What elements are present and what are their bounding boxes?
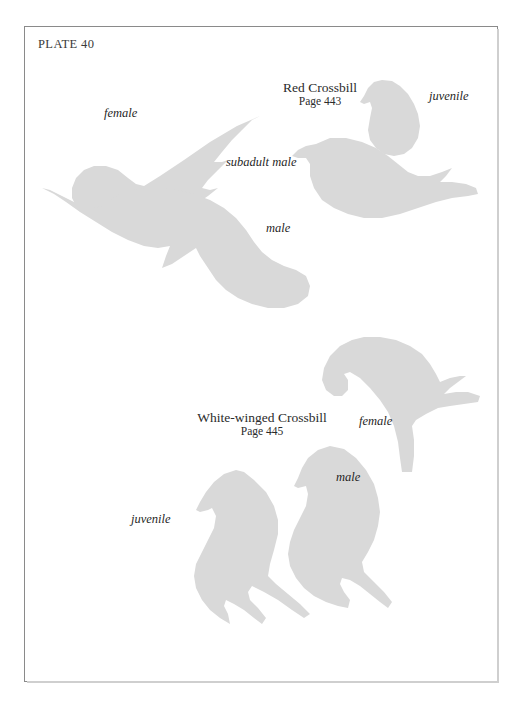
- plate-page: PLATE 40: [0, 0, 522, 710]
- figure-label-white-winged-crossbill-juvenile: juvenile: [131, 512, 171, 527]
- species-page-red-crossbill: Page 443: [245, 95, 395, 108]
- plate-number-label: PLATE 40: [38, 37, 94, 52]
- species-name-red-crossbill: Red Crossbill: [245, 80, 395, 95]
- figure-label-red-crossbill-male: male: [266, 221, 290, 236]
- figure-label-white-winged-crossbill-female: female: [359, 414, 392, 429]
- species-title-white-winged-crossbill: White-winged Crossbill Page 445: [162, 410, 362, 438]
- plate-border-frame: [24, 26, 498, 682]
- species-title-red-crossbill: Red Crossbill Page 443: [245, 80, 395, 108]
- figure-label-red-crossbill-subadult-male: subadult male: [226, 155, 296, 170]
- figure-label-white-winged-crossbill-male: male: [336, 470, 360, 485]
- figure-label-red-crossbill-female: female: [104, 106, 137, 121]
- species-page-white-winged-crossbill: Page 445: [162, 425, 362, 438]
- species-name-white-winged-crossbill: White-winged Crossbill: [162, 410, 362, 425]
- figure-label-red-crossbill-juvenile: juvenile: [429, 89, 469, 104]
